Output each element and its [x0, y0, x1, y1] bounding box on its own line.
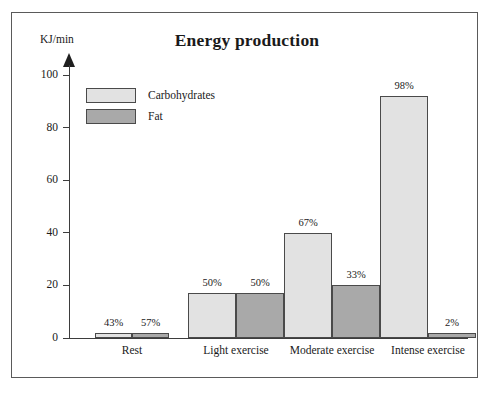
- y-axis-tick: [63, 127, 70, 128]
- bar-value-label: 50%: [230, 278, 290, 289]
- bar-fat: [236, 293, 284, 338]
- chart-plot-area: Energy production KJ/min 020406080100 43…: [12, 13, 479, 379]
- legend-label-fat: Fat: [148, 110, 163, 124]
- y-axis-tick: [63, 232, 70, 233]
- bar-value-label: 98%: [374, 81, 434, 92]
- bar-carbohydrates: [380, 96, 428, 338]
- chart-title: Energy production: [112, 30, 382, 51]
- y-axis-tick-label: 0: [24, 332, 58, 344]
- y-axis-tick-label: 60: [24, 174, 58, 186]
- bar-value-label: 2%: [422, 318, 482, 329]
- x-axis-line: [69, 338, 468, 339]
- y-axis-tick: [63, 75, 70, 76]
- y-axis-tick-label: 80: [24, 122, 58, 134]
- legend-swatch-fat: [86, 109, 136, 124]
- y-axis-tick: [63, 285, 70, 286]
- y-axis-tick: [63, 180, 70, 181]
- bar-fat: [428, 333, 476, 338]
- chart-frame: Energy production KJ/min 020406080100 43…: [11, 12, 478, 378]
- y-axis-tick-label: 40: [24, 227, 58, 239]
- y-axis-tick-label: 20: [24, 279, 58, 291]
- bar-value-label: 67%: [278, 218, 338, 229]
- y-axis-label: KJ/min: [40, 33, 74, 45]
- bar-carbohydrates: [284, 233, 332, 338]
- x-axis-group-label: Intense exercise: [354, 345, 493, 357]
- legend-label-carbohydrates: Carbohydrates: [148, 89, 215, 103]
- bar-value-label: 33%: [326, 270, 386, 281]
- bar-fat: [332, 285, 380, 338]
- legend-swatch-carbohydrates: [86, 88, 136, 103]
- y-axis-tick-label: 100: [24, 69, 58, 81]
- bar-fat: [132, 333, 169, 338]
- y-axis-line: [69, 65, 70, 339]
- y-axis-tick: [63, 338, 70, 339]
- bar-value-label: 57%: [126, 318, 175, 329]
- bar-carbohydrates: [95, 333, 132, 338]
- bar-carbohydrates: [188, 293, 236, 338]
